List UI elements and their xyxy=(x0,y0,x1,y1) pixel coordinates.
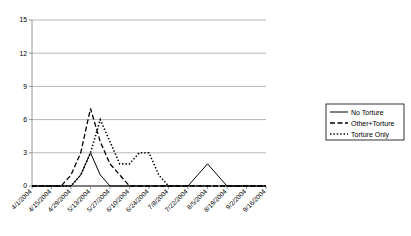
y-axis-tick-labels: 03691215 xyxy=(19,16,27,189)
data-series-group xyxy=(32,109,266,186)
legend-label-torture-only: Torture Only xyxy=(351,131,390,139)
y-axis xyxy=(29,20,32,186)
series-line-other-torture xyxy=(32,109,266,186)
y-tick-label-6: 6 xyxy=(23,116,27,123)
legend-label-no-torture: No Torture xyxy=(351,109,384,116)
series-line-no-torture xyxy=(32,153,266,186)
y-tick-label-9: 9 xyxy=(23,83,27,90)
legend-label-other-torture: Other+Torture xyxy=(351,120,394,127)
x-axis-tick-labels: 4/1/20044/15/20044/29/20045/13/20045/27/… xyxy=(10,187,267,213)
gridlines xyxy=(32,20,266,153)
chart-container: 03691215 4/1/20044/15/20044/29/20045/13/… xyxy=(0,0,411,236)
y-tick-label-12: 12 xyxy=(19,50,27,57)
y-tick-label-15: 15 xyxy=(19,16,27,23)
y-tick-label-3: 3 xyxy=(23,149,27,156)
line-chart: 03691215 4/1/20044/15/20044/29/20045/13/… xyxy=(0,0,411,236)
chart-legend: No TortureOther+TortureTorture Only xyxy=(326,104,404,140)
